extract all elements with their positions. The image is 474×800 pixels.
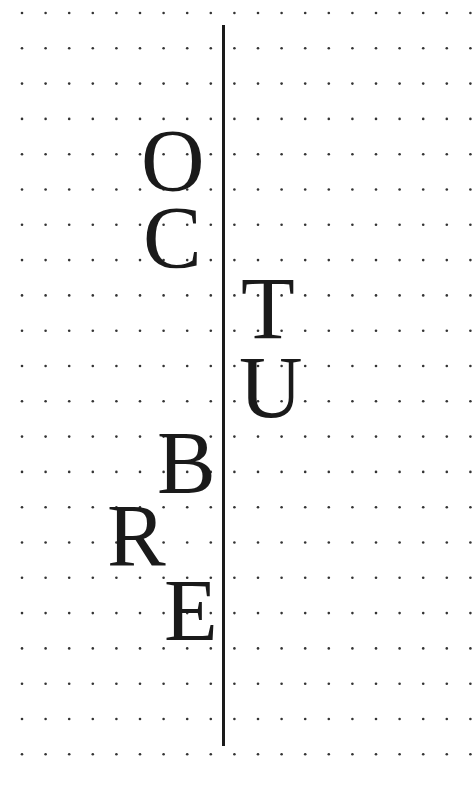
grid-dot — [422, 47, 425, 50]
grid-dot — [44, 577, 47, 580]
grid-dot — [351, 82, 354, 85]
grid-dot — [21, 47, 24, 50]
grid-dot — [162, 329, 165, 332]
grid-dot — [233, 718, 236, 721]
grid-dot — [375, 188, 378, 191]
grid-dot — [304, 541, 307, 544]
grid-dot — [21, 153, 24, 156]
grid-dot — [328, 153, 331, 156]
grid-dot — [446, 682, 449, 685]
grid-dot — [21, 188, 24, 191]
grid-dot — [68, 294, 71, 297]
grid-dot — [257, 12, 260, 15]
grid-dot — [280, 224, 283, 227]
grid-dot — [92, 577, 95, 580]
grid-dot — [469, 294, 472, 297]
grid-dot — [422, 259, 425, 262]
grid-dot — [328, 329, 331, 332]
grid-dot — [280, 541, 283, 544]
grid-dot — [233, 577, 236, 580]
grid-dot — [422, 682, 425, 685]
grid-dot — [68, 118, 71, 121]
grid-dot — [375, 577, 378, 580]
grid-dot — [162, 718, 165, 721]
grid-dot — [115, 118, 118, 121]
grid-dot — [469, 224, 472, 227]
grid-dot — [469, 400, 472, 403]
grid-dot — [328, 435, 331, 438]
grid-dot — [351, 471, 354, 474]
grid-dot — [422, 612, 425, 615]
grid-dot — [351, 224, 354, 227]
grid-dot — [115, 647, 118, 650]
grid-dot — [328, 294, 331, 297]
grid-dot — [469, 82, 472, 85]
grid-dot — [139, 294, 142, 297]
grid-dot — [44, 188, 47, 191]
grid-dot — [162, 294, 165, 297]
letter-r: R — [107, 492, 166, 580]
grid-dot — [375, 471, 378, 474]
grid-dot — [186, 329, 189, 332]
grid-dot — [398, 612, 401, 615]
grid-dot — [139, 329, 142, 332]
grid-dot — [328, 400, 331, 403]
grid-dot — [304, 577, 307, 580]
grid-dot — [210, 329, 213, 332]
grid-dot — [92, 753, 95, 756]
grid-dot — [328, 118, 331, 121]
grid-dot — [469, 577, 472, 580]
grid-dot — [210, 82, 213, 85]
grid-dot — [469, 541, 472, 544]
grid-dot — [398, 47, 401, 50]
grid-dot — [21, 12, 24, 15]
grid-dot — [351, 365, 354, 368]
grid-dot — [446, 506, 449, 509]
grid-dot — [139, 753, 142, 756]
grid-dot — [280, 12, 283, 15]
grid-dot — [186, 682, 189, 685]
grid-dot — [92, 82, 95, 85]
grid-dot — [375, 647, 378, 650]
grid-dot — [398, 400, 401, 403]
grid-dot — [280, 506, 283, 509]
grid-dot — [115, 82, 118, 85]
grid-dot — [351, 718, 354, 721]
grid-dot — [92, 365, 95, 368]
grid-dot — [115, 718, 118, 721]
grid-dot — [68, 753, 71, 756]
grid-dot — [44, 612, 47, 615]
grid-dot — [44, 471, 47, 474]
grid-dot — [21, 682, 24, 685]
grid-dot — [233, 753, 236, 756]
grid-dot — [139, 647, 142, 650]
grid-dot — [280, 471, 283, 474]
grid-dot — [422, 224, 425, 227]
letter-u: U — [239, 344, 303, 432]
grid-dot — [375, 718, 378, 721]
grid-dot — [375, 153, 378, 156]
grid-dot — [328, 718, 331, 721]
grid-dot — [44, 400, 47, 403]
grid-dot — [469, 12, 472, 15]
grid-dot — [446, 329, 449, 332]
grid-dot — [351, 435, 354, 438]
grid-dot — [469, 435, 472, 438]
grid-dot — [210, 12, 213, 15]
grid-dot — [44, 118, 47, 121]
grid-dot — [92, 224, 95, 227]
grid-dot — [186, 12, 189, 15]
grid-dot — [21, 612, 24, 615]
grid-dot — [328, 47, 331, 50]
grid-dot — [304, 753, 307, 756]
grid-dot — [186, 47, 189, 50]
grid-dot — [375, 612, 378, 615]
grid-dot — [21, 118, 24, 121]
grid-dot — [186, 718, 189, 721]
grid-dot — [375, 329, 378, 332]
grid-dot — [446, 753, 449, 756]
grid-dot — [21, 82, 24, 85]
grid-dot — [304, 471, 307, 474]
grid-dot — [422, 329, 425, 332]
grid-dot — [351, 647, 354, 650]
